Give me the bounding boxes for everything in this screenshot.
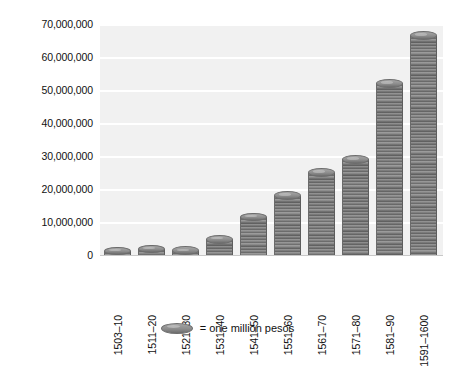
coin-icon [342,155,369,164]
coin-icon [410,31,437,40]
coin-icon [376,79,403,88]
x-axis: 1503–10 1511–20 1521–30 1531–40 1541–50 … [100,258,443,318]
legend: = one million pesos [0,316,455,340]
y-tick-label: 10,000,000 [41,217,93,228]
y-tick-label: 40,000,000 [41,118,93,129]
coin-stack [240,217,267,255]
y-tick-label: 70,000,000 [41,19,93,30]
coin-stack [104,251,131,255]
y-tick-label: 20,000,000 [41,184,93,195]
coin-stack [138,249,165,255]
y-tick-label: 60,000,000 [41,52,93,63]
coin-icon [308,168,335,177]
coin-stack [172,251,199,255]
y-tick-label: 50,000,000 [41,85,93,96]
coin-icon [240,213,267,222]
bars-layer [100,24,443,255]
coin-stack [376,83,403,255]
coin-stack [206,239,233,255]
coin-icon [172,246,199,255]
coin-stack [342,159,369,255]
y-axis: 70,000,000 60,000,000 50,000,000 40,000,… [0,0,97,260]
y-tick-label: 0 [87,250,93,261]
y-tick-label: 30,000,000 [41,151,93,162]
legend-label: = one million pesos [200,322,294,334]
coin-icon [161,323,193,334]
coin-icon [206,235,233,244]
coin-stack [308,173,335,256]
coin-stack [274,196,301,255]
coin-stack [410,36,437,255]
coin-icon [138,245,165,254]
coin-icon [104,247,131,256]
coin-icon [274,191,301,200]
